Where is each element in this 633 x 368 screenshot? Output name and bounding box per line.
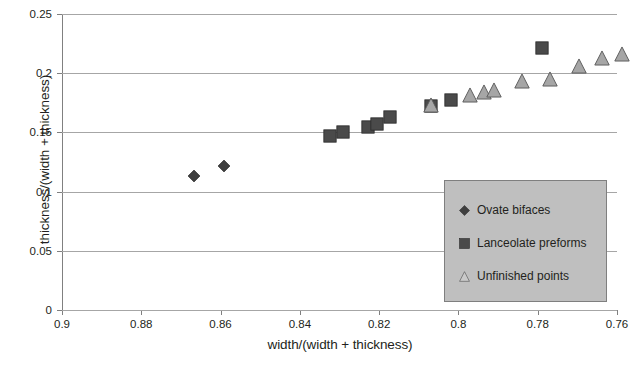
x-tick-label: 0.8: [450, 318, 466, 330]
x-tick-label: 0.88: [130, 318, 152, 330]
scatter-chart: thickness/(width + thickness) width/(wid…: [0, 0, 633, 368]
data-point: [444, 93, 458, 107]
y-tick-label: 0.2: [36, 67, 52, 79]
x-tick-label: 0.84: [289, 318, 311, 330]
data-point: [486, 82, 502, 98]
legend-diamond-icon: [458, 204, 471, 217]
x-tick-label: 0.82: [368, 318, 390, 330]
data-point: [217, 160, 230, 173]
data-point: [542, 71, 558, 87]
legend-item-label: Unfinished points: [477, 269, 569, 283]
x-tick-label: 0.86: [209, 318, 231, 330]
legend-item-label: Ovate bifaces: [477, 203, 550, 217]
data-point: [571, 58, 587, 74]
data-point: [188, 169, 201, 182]
y-tick-label: 0.15: [30, 126, 52, 138]
legend-item: Lanceolate preforms: [458, 236, 586, 250]
gridline-y: [62, 14, 617, 15]
data-point: [514, 73, 530, 89]
y-axis-title: thickness/(width + thickness): [37, 10, 52, 310]
x-axis-title: width/(width + thickness): [62, 337, 618, 352]
legend-item-label: Lanceolate preforms: [477, 236, 586, 250]
y-tick-label: 0: [46, 304, 52, 316]
data-point: [594, 50, 610, 66]
data-point: [336, 125, 350, 139]
data-point: [383, 110, 397, 124]
data-point: [370, 117, 384, 131]
x-tick-label: 0.9: [54, 318, 70, 330]
x-tick-label: 0.78: [527, 318, 549, 330]
y-tick-label: 0.1: [36, 186, 52, 198]
legend-triangle-icon: [458, 270, 471, 283]
x-tick-label: 0.76: [606, 318, 628, 330]
x-tick-mark: [617, 310, 618, 315]
data-point: [535, 41, 549, 55]
legend-item: Unfinished points: [458, 269, 569, 283]
data-point: [423, 97, 439, 113]
legend-square-icon: [458, 237, 471, 250]
gridline-y: [62, 310, 617, 311]
data-point: [323, 129, 337, 143]
legend-item: Ovate bifaces: [458, 203, 550, 217]
y-tick-label: 0.05: [30, 245, 52, 257]
y-tick-label: 0.25: [30, 8, 52, 20]
chart-legend: Ovate bifacesLanceolate preformsUnfinish…: [444, 180, 607, 302]
gridline-y: [62, 73, 617, 74]
data-point: [614, 46, 630, 62]
